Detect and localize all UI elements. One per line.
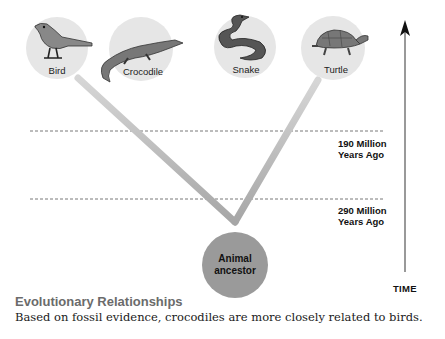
ancestor-line1: Animal [200,253,270,265]
organism-label-turtle: Turtle [301,64,371,75]
phylogenetic-tree [0,0,445,339]
organism-label-snake: Snake [211,64,281,75]
organism-label-crocodile: Crocodile [108,66,178,77]
caption-title: Evolutionary Relationships [15,294,183,309]
era-label-190: 190 Million Years Ago [338,138,387,160]
time-axis-label: TIME [393,283,417,294]
arrow-up-icon [400,20,410,272]
caption-body: Based on fossil evidence, crocodiles are… [15,310,435,325]
era-190-line1: 190 Million [338,138,387,149]
ancestor-line2: ancestor [200,265,270,277]
tree-branches [78,78,318,236]
organism-label-bird: Bird [22,65,92,76]
era-290-line2: Years Ago [338,216,387,227]
ancestor-label: Animal ancestor [200,253,270,277]
era-190-line2: Years Ago [338,149,387,160]
era-label-290: 290 Million Years Ago [338,205,387,227]
era-290-line1: 290 Million [338,205,387,216]
